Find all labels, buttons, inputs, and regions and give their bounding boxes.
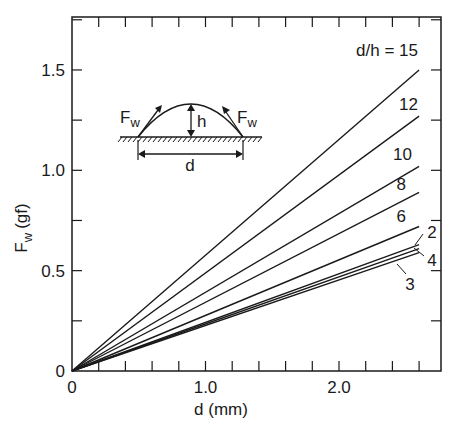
series-line (72, 192, 419, 371)
series-label: d/h = 15 (356, 41, 418, 60)
series-label: 4 (427, 251, 436, 270)
y-tick-label: 0 (56, 362, 65, 381)
y-axis-title-sub: w (20, 232, 35, 243)
y-tick-label: 1.0 (41, 161, 65, 180)
x-tick-label: 2.0 (327, 378, 351, 397)
series-line (72, 166, 419, 371)
series-line (72, 226, 419, 371)
series-label: 10 (393, 145, 412, 164)
series-line (72, 253, 419, 371)
inset-h-arrowhead-down (187, 130, 195, 137)
inset-d-arrowhead-left (138, 150, 145, 158)
inset-d-label: d (185, 156, 194, 175)
series-line (72, 116, 419, 371)
series-label: 12 (399, 95, 418, 114)
y-axis-title: Fw(gf) (12, 203, 35, 252)
inset-h-arrowhead-up (187, 104, 195, 111)
chart: 01.02.000.51.01.5 d/h = 15121086243 d (m… (0, 0, 451, 434)
inset-d-arrowhead-right (236, 150, 243, 158)
x-tick-label: 1.0 (194, 378, 218, 397)
plot-frame (72, 17, 441, 371)
inset-fw-left-arrow (138, 110, 158, 137)
series-label: 2 (427, 223, 436, 242)
y-axis-title-unit: (gf) (12, 203, 31, 229)
x-axis-title: d (mm) (194, 400, 248, 419)
y-tick-label: 1.5 (41, 61, 65, 80)
series-label-leader (397, 264, 406, 274)
series-label-leader (415, 234, 423, 245)
inset-fw-left-label: Fw (120, 108, 140, 130)
series-label: 6 (397, 207, 406, 226)
plot-border (72, 17, 441, 371)
svg-text:Fw(gf): Fw(gf) (12, 203, 35, 252)
inset-h-label: h (197, 112, 206, 131)
axis-ticks (72, 17, 441, 371)
inset-fw-right-label: Fw (237, 108, 257, 130)
x-tick-label: 0 (67, 378, 76, 397)
y-tick-label: 0.5 (41, 262, 65, 281)
inset-diagram: h d Fw Fw (118, 104, 262, 175)
series-label: 8 (397, 175, 406, 194)
y-axis-title-F: F (12, 242, 31, 252)
series-label: 3 (405, 275, 414, 294)
